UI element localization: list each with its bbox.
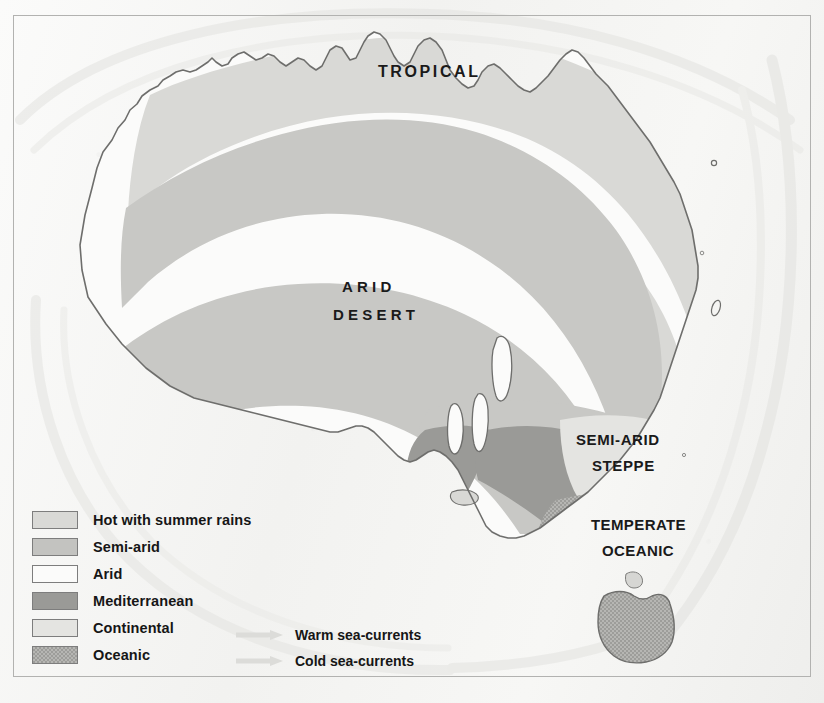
climate-map-page: TROPICAL ARID DESERT SEMI-ARID STEPPE TE… (0, 0, 824, 703)
map-border-frame (13, 15, 811, 677)
